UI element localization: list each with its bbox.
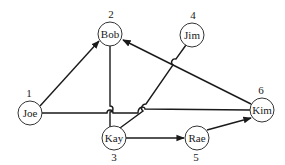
node-bob-name: Bob <box>101 28 120 40</box>
edge-joe-kim <box>42 107 250 113</box>
node-rae: Rae 5 <box>185 126 209 163</box>
node-joe: Joe 1 <box>18 87 42 125</box>
node-kim: Kim 6 <box>250 84 274 122</box>
edge-jim-kay <box>120 45 186 128</box>
node-bob-number: 2 <box>108 8 114 20</box>
node-jim: Jim 4 <box>180 9 204 47</box>
node-kay-number: 3 <box>111 151 117 163</box>
node-kim-name: Kim <box>252 104 272 116</box>
node-joe-name: Joe <box>23 107 38 119</box>
node-kay: Kay 3 <box>102 126 126 163</box>
node-jim-number: 4 <box>190 9 196 21</box>
edge-joe-bob <box>40 41 99 106</box>
network-diagram: Joe 1 Bob 2 Kay 3 Jim 4 Rae 5 Kim 6 <box>0 0 285 165</box>
node-kay-name: Kay <box>105 132 124 144</box>
edge-bob-kay <box>110 45 113 127</box>
node-rae-number: 5 <box>193 151 199 163</box>
node-jim-name: Jim <box>184 29 200 41</box>
node-kim-number: 6 <box>258 84 264 96</box>
edge-rae-kim <box>207 118 251 130</box>
edge-kim-bob <box>123 40 251 104</box>
node-bob: Bob 2 <box>98 8 122 46</box>
node-joe-number: 1 <box>26 87 32 99</box>
node-rae-name: Rae <box>188 132 205 144</box>
